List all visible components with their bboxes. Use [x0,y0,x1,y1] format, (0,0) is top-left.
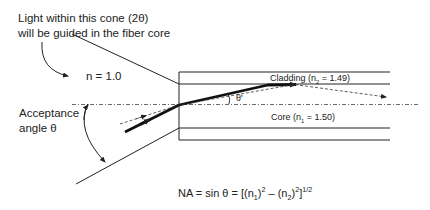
acceptance-angle-arc [84,104,105,162]
critical-ray [125,85,296,133]
cladding-label-prefix: Cladding (n [270,73,316,83]
caption-pointer-arrow [42,42,68,76]
core-label-prefix: Core (n [271,112,301,122]
eq-part: – (n [265,187,287,199]
eq-sup-half: 1/2 [302,186,312,194]
internal-angle-label: θ' [236,94,243,103]
acceptance-label-line-1: Acceptance [19,108,79,120]
outer-medium-index-label: n = 1.0 [86,71,122,83]
fiber-acceptance-diagram: Light within this cone (2θ) will be guid… [0,0,430,210]
numerical-aperture-equation: NA = sin θ = [(n1)2 – (n2)2]1/2 [178,188,312,199]
core-label-suffix: = 1.50) [304,112,335,122]
internal-angle-arc [228,94,230,104]
cone-lower-edge [76,128,179,184]
cladding-label-suffix: = 1.49) [319,73,350,83]
eq-lhs: NA = sin θ = [(n [178,187,254,199]
caption-line-2: will be guided in the fiber core [18,28,170,40]
cladding-label: Cladding (n2 = 1.49) [270,74,350,83]
acceptance-label-line-2: angle θ [19,123,57,135]
caption-line-1: Light within this cone (2θ) [18,13,148,25]
core-label: Core (n1 = 1.50) [271,113,335,122]
incident-ray-arrowhead [140,120,150,125]
